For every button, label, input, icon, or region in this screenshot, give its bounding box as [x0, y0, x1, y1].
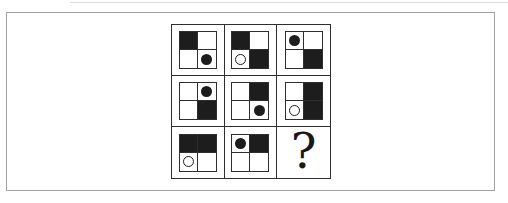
- matrix-cell-r3c2: [225, 127, 278, 178]
- quadrant-tl-black: [180, 135, 198, 153]
- quadrant-tl-white: [232, 135, 250, 153]
- quadrant-tl-white: [286, 83, 304, 101]
- quadrant-bl-white: [232, 50, 250, 68]
- filled-circle-icon: [201, 86, 212, 97]
- quadrant-br-black: [250, 50, 268, 68]
- quadrant-tl-white: [232, 83, 250, 101]
- quad-figure-r3c1: [179, 134, 217, 172]
- quadrant-tl-black: [180, 32, 198, 50]
- quadrant-tl-black: [232, 32, 250, 50]
- quadrant-br-white: [250, 153, 268, 171]
- matrix-cell-r3c3: ?: [277, 127, 330, 178]
- outlined-circle-icon: [235, 54, 246, 65]
- quadrant-tr-white: [250, 32, 268, 50]
- scanned-figure-page: ?: [0, 0, 508, 203]
- filled-circle-icon: [201, 54, 212, 65]
- quadrant-tr-black: [250, 135, 268, 153]
- quadrant-tl-white: [286, 32, 304, 50]
- quadrant-bl-white: [232, 153, 250, 171]
- page-top-rule: [70, 2, 508, 3]
- outlined-circle-icon: [183, 156, 194, 167]
- filled-circle-icon: [235, 138, 246, 149]
- matrix-cell-r2c2: [225, 76, 278, 127]
- matrix-cell-r1c2: [225, 25, 278, 76]
- filled-circle-icon: [254, 105, 265, 116]
- quadrant-br-white: [250, 101, 268, 119]
- quadrant-br-black: [198, 101, 216, 119]
- quadrant-bl-white: [180, 50, 198, 68]
- quadrant-tr-black: [250, 83, 268, 101]
- quadrant-bl-white: [180, 153, 198, 171]
- quad-figure-r3c2: [231, 134, 269, 172]
- matrix-cell-r2c1: [172, 76, 225, 127]
- quadrant-bl-white: [286, 101, 304, 119]
- quad-figure-r1c1: [179, 31, 217, 69]
- matrix-cell-r2c3: [277, 76, 330, 127]
- quadrant-tr-white: [198, 32, 216, 50]
- quad-figure-r2c2: [231, 82, 269, 120]
- quadrant-tr-black: [304, 83, 322, 101]
- outlined-circle-icon: [289, 105, 300, 116]
- quadrant-bl-white: [232, 101, 250, 119]
- quad-figure-r2c3: [285, 82, 323, 120]
- puzzle-matrix: ?: [171, 24, 331, 179]
- quadrant-br-black: [304, 50, 322, 68]
- quad-figure-r1c2: [231, 31, 269, 69]
- quadrant-tr-white: [198, 83, 216, 101]
- question-mark: ?: [291, 127, 317, 175]
- matrix-cell-r3c1: [172, 127, 225, 178]
- quadrant-br-black: [304, 101, 322, 119]
- quadrant-br-white: [198, 153, 216, 171]
- matrix-cell-r1c1: [172, 25, 225, 76]
- filled-circle-icon: [289, 35, 300, 46]
- quadrant-tl-white: [180, 83, 198, 101]
- quadrant-tr-black: [198, 135, 216, 153]
- quadrant-bl-white: [180, 101, 198, 119]
- quadrant-br-white: [198, 50, 216, 68]
- quadrant-tr-white: [304, 32, 322, 50]
- matrix-cell-r1c3: [277, 25, 330, 76]
- quadrant-bl-white: [286, 50, 304, 68]
- quad-figure-r2c1: [179, 82, 217, 120]
- quad-figure-r1c3: [285, 31, 323, 69]
